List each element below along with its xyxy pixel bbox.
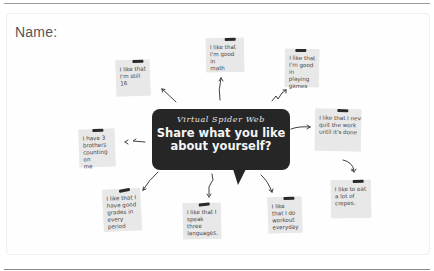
note-three-languages: I like that I speak three languages. — [183, 203, 222, 240]
question-line-2: about yourself? — [152, 140, 290, 153]
note-eat-crepes: I like to eat a lot of crepes. — [331, 180, 372, 219]
note-never-quit: I like that I never quit the work until … — [315, 109, 362, 152]
note-line: languages. — [187, 230, 218, 238]
bubble-title: Virtual Spider Web — [152, 115, 290, 124]
note-line: I'm still 16 — [120, 73, 147, 88]
note-line: everyday — [272, 224, 299, 232]
note-line: until it's done — [319, 129, 358, 137]
note-playing-games: I like that I'm good in playing games — [285, 49, 320, 88]
tape-icon — [92, 129, 103, 132]
tape-icon — [295, 49, 306, 52]
speech-bubble-tail — [233, 169, 246, 185]
note-line: speak three — [187, 216, 218, 231]
tape-icon — [119, 188, 130, 193]
note-line: I'm good in — [289, 62, 316, 76]
note-line: math — [210, 65, 241, 73]
tape-icon — [353, 180, 364, 183]
note-line: counting on — [83, 148, 112, 163]
note-line: me — [84, 162, 113, 170]
note-line: crepes. — [335, 200, 368, 208]
note-good-math: I like that I'm good in math — [206, 38, 245, 73]
note-line: games — [289, 83, 316, 90]
bottom-divider — [4, 269, 430, 270]
note-workout: I like that I do workout everyday — [267, 196, 302, 233]
tape-icon — [132, 60, 143, 63]
tape-icon — [283, 197, 294, 200]
note-good-grades: I like that I have good grades in every … — [102, 188, 142, 232]
note-three-brothers: I have 3 brothers counting on me — [78, 128, 115, 167]
note-line: every period — [107, 215, 139, 231]
bubble-question: Share what you like about yourself? — [152, 127, 290, 153]
note-still-16: I like that I'm still 16 — [115, 59, 150, 96]
note-line: I'm good in — [210, 51, 241, 66]
tape-icon — [199, 202, 210, 206]
speech-bubble: Virtual Spider Web Share what you like a… — [152, 109, 290, 170]
tape-icon — [225, 38, 236, 41]
tape-icon — [337, 109, 348, 112]
